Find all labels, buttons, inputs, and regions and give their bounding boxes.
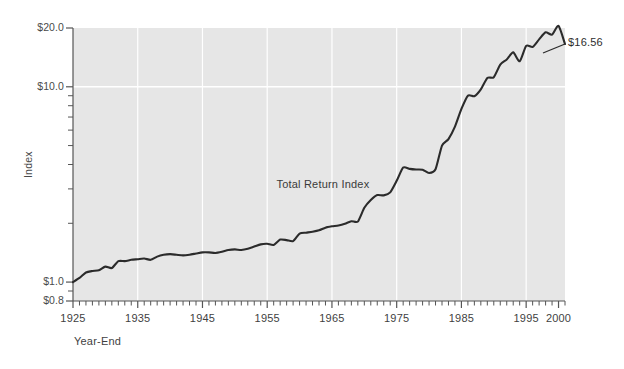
- x-axis-tick-label: 1965: [305, 312, 359, 324]
- x-axis-tick-label: 1985: [434, 312, 488, 324]
- x-axis-title: Year-End: [74, 335, 121, 347]
- x-axis-tick-label: 1935: [111, 312, 165, 324]
- end-value-label: $16.56: [568, 36, 603, 48]
- y-axis-tick-label: $0.8: [8, 294, 64, 306]
- y-axis-tick-label: $20.0: [8, 21, 64, 33]
- chart-container: $20.0 $10.0 $1.0 $0.8 1925 1935 1945 195…: [0, 0, 624, 369]
- y-axis-title: Index: [22, 151, 34, 178]
- x-axis-tick-label: 2000: [532, 312, 586, 324]
- y-axis-tick-label: $10.0: [8, 80, 64, 92]
- x-axis-tick-label: 1975: [370, 312, 424, 324]
- series-annotation-label: Total Return Index: [276, 178, 369, 190]
- x-axis-tick-label: 1925: [46, 312, 100, 324]
- y-axis-tick-label: $1.0: [8, 275, 64, 287]
- x-axis-tick-label: 1945: [175, 312, 229, 324]
- x-axis-tick-label: 1955: [240, 312, 294, 324]
